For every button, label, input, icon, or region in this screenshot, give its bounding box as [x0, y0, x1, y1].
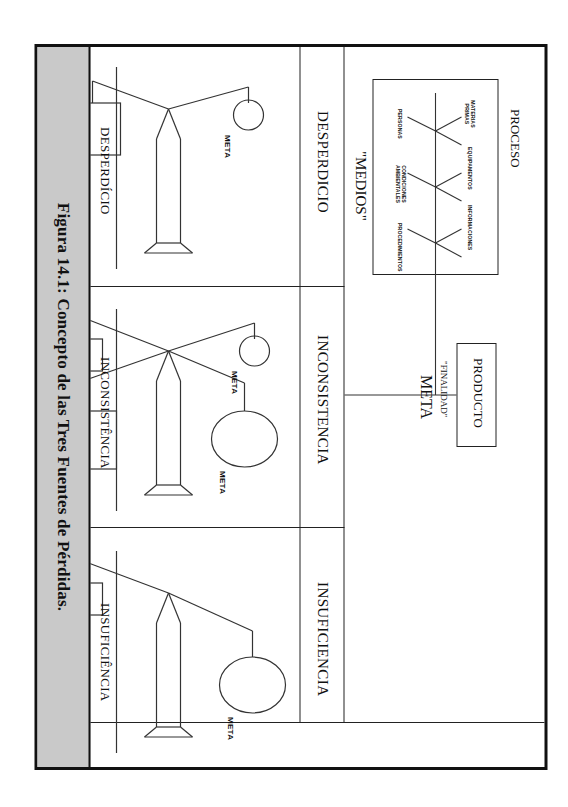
- insuficiencia-baseline-label: INSUFICIÊNCIA: [96, 603, 112, 702]
- insuficiencia-meta-label: META: [225, 717, 234, 740]
- figure-frame: PROCESO: [34, 44, 547, 770]
- scanned-page: PROCESO: [0, 0, 568, 807]
- figure-rotation-wrapper: PROCESO: [34, 44, 547, 770]
- figure-caption-band: Figura 14.1: Concepto de las Tres Fuente…: [37, 47, 90, 767]
- figure-caption-text: Figura 14.1: Concepto de las Tres Fuente…: [53, 203, 73, 611]
